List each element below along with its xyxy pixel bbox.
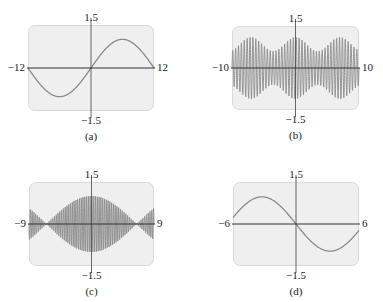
y-max-label: 1.5 <box>289 13 303 24</box>
panel-caption: (a) <box>85 131 97 142</box>
y-min-label: −1.5 <box>286 114 306 125</box>
x-min-label: −10 <box>212 62 229 73</box>
panel-caption: (c) <box>85 286 97 297</box>
y-max-label: 1.5 <box>84 12 98 23</box>
x-max-label: 10 <box>362 62 373 73</box>
x-min-label: −6 <box>218 218 230 229</box>
y-max-label: 1.5 <box>289 169 303 180</box>
plot-svg <box>29 182 154 266</box>
plot-svg <box>233 182 359 266</box>
y-min-label: −1.5 <box>82 270 102 281</box>
x-max-label: 12 <box>157 62 168 73</box>
x-max-label: 6 <box>362 218 368 229</box>
x-min-label: −9 <box>14 218 26 229</box>
y-min-label: −1.5 <box>286 270 306 281</box>
x-max-label: 9 <box>157 218 163 229</box>
plot-svg <box>232 26 359 110</box>
panel-caption: (d) <box>290 286 303 297</box>
y-min-label: −1.5 <box>81 115 101 126</box>
panel-caption: (b) <box>289 130 302 141</box>
plot-svg <box>28 25 154 111</box>
y-max-label: 1.5 <box>85 169 99 180</box>
x-min-label: −12 <box>8 62 25 73</box>
